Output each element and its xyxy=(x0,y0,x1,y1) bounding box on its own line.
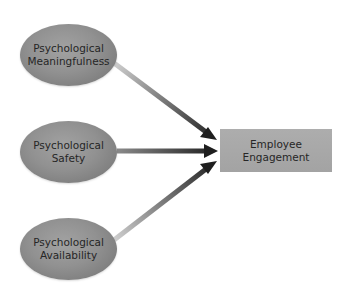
node-psychological-availability: Psychological Availability xyxy=(20,218,117,280)
node-psychological-meaningfulness: Psychological Meaningfulness xyxy=(20,24,117,86)
engagement-diagram: Psychological Meaningfulness Psychologic… xyxy=(0,0,352,286)
arrow-safety-to-engagement xyxy=(117,144,218,158)
node-employee-engagement: Employee Engagement xyxy=(220,129,332,172)
arrow-availability-to-engagement xyxy=(114,161,217,240)
node-psychological-safety: Psychological Safety xyxy=(20,121,117,183)
node-label-line: Psychological xyxy=(33,42,104,55)
node-label-line: Meaningfulness xyxy=(27,55,109,68)
arrow-meaningfulness-to-engagement xyxy=(114,63,217,140)
node-label-line: Employee xyxy=(250,138,302,151)
node-label-line: Engagement xyxy=(243,151,310,164)
node-label-line: Safety xyxy=(52,152,86,165)
node-label-line: Psychological xyxy=(33,236,104,249)
node-label-line: Psychological xyxy=(33,139,104,152)
node-label-line: Availability xyxy=(40,249,97,262)
